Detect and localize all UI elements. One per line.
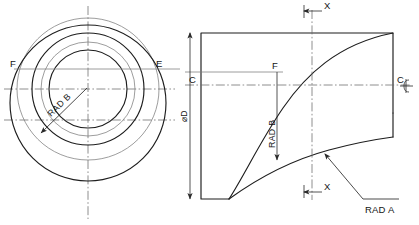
- part-outline-body: [201, 33, 393, 199]
- technical-drawing-canvas: RAD B F E ⌀D: [0, 0, 419, 225]
- section-label-x-top: X: [324, 0, 331, 11]
- drawing-svg: RAD B F E ⌀D: [0, 0, 419, 225]
- point-f-label-right-view: F: [272, 60, 278, 71]
- left-view-group: RAD B F E: [4, 6, 180, 219]
- right-view-group: ⌀D RAD B RAD A X X F C C: [179, 0, 413, 215]
- rad-b-profile-curve: [229, 33, 393, 199]
- rad-a-profile-curve: [229, 137, 393, 199]
- point-f-label-left-view: F: [10, 58, 16, 69]
- datum-c-label-left: C: [189, 74, 196, 85]
- point-e-label-left-view: E: [156, 58, 163, 69]
- rad-a-leader-line: [325, 154, 363, 199]
- section-label-x-bottom: X: [324, 181, 331, 192]
- diameter-d-label: ⌀D: [179, 110, 189, 122]
- datum-c-label-right: C: [397, 74, 404, 85]
- rad-b-label-right-view: RAD B: [267, 120, 277, 148]
- rad-a-label: RAD A: [365, 204, 395, 215]
